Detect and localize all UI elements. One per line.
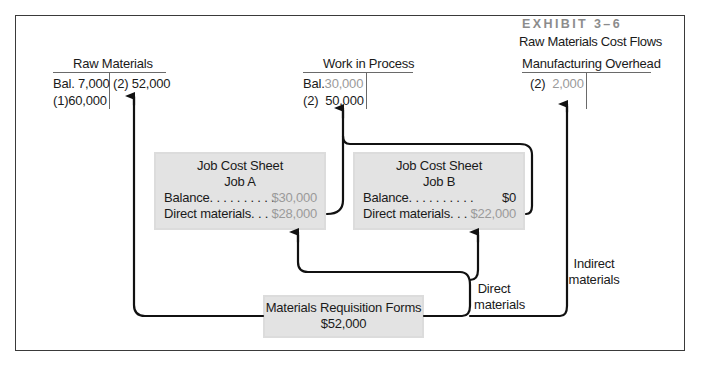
arrow-job-b-to-wip	[343, 136, 532, 214]
arrow-job-a-to-wip	[327, 110, 343, 214]
arrow-to-job-b	[470, 235, 478, 280]
arrow-requisition-right	[298, 235, 470, 316]
flow-arrows	[0, 0, 701, 368]
arrow-to-overhead	[470, 106, 567, 316]
arrow-to-raw-materials	[134, 97, 263, 316]
